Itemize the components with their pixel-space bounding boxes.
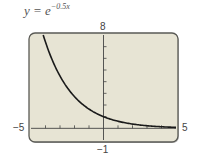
xmax-label: 5 [182, 122, 188, 133]
plot-area [0, 0, 197, 159]
xmin-label: −5 [13, 122, 24, 133]
ymax-label: 8 [100, 21, 106, 32]
ymin-label: −1 [97, 144, 108, 155]
